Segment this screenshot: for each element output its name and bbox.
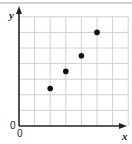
x-axis-label: x xyxy=(121,130,128,142)
data-point xyxy=(63,69,69,75)
x-axis-arrow-icon xyxy=(119,123,127,129)
data-points xyxy=(47,30,99,92)
data-point xyxy=(47,86,53,92)
data-point xyxy=(79,53,85,59)
x-origin-label: 0 xyxy=(17,128,23,139)
y-axis-arrow-icon xyxy=(16,6,22,14)
data-point xyxy=(94,30,100,36)
grid-lines xyxy=(19,17,128,126)
y-axis-label: y xyxy=(7,9,14,21)
y-origin-label: 0 xyxy=(10,120,16,131)
scatter-plot: y x 0 0 xyxy=(0,0,132,144)
